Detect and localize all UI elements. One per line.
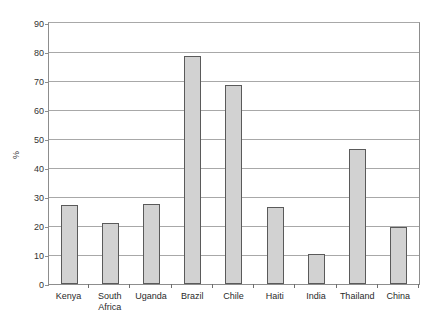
x-tick-mark (418, 284, 419, 288)
bar-slot (255, 23, 296, 284)
y-tick-label: 10 (34, 252, 44, 261)
x-axis-ticks (48, 284, 419, 289)
x-axis-label-line: Chile (213, 291, 254, 302)
x-axis-label-brazil: Brazil (172, 291, 213, 313)
bar[interactable] (267, 207, 284, 284)
x-tick-cell (130, 284, 171, 289)
y-axis-title: % (1, 145, 31, 165)
x-tick-cell (172, 284, 213, 289)
x-tick-cell (337, 284, 378, 289)
y-tick-label: 0 (39, 281, 44, 290)
x-tick-cell (48, 284, 89, 289)
plot-area: 0102030405060708090 (48, 22, 420, 285)
x-axis-label-line: Kenya (48, 291, 89, 302)
bar[interactable] (184, 56, 201, 284)
x-axis-label-line: Africa (89, 302, 130, 313)
x-axis-label-line: Uganda (130, 291, 171, 302)
bar-slot (296, 23, 337, 284)
bar-slot (213, 23, 254, 284)
x-axis-label-south-africa: SouthAfrica (89, 291, 130, 313)
bars-group (49, 23, 419, 284)
x-axis-label-line: China (378, 291, 419, 302)
bar[interactable] (225, 85, 242, 284)
y-tick-label: 40 (34, 165, 44, 174)
x-axis-label-china: China (378, 291, 419, 313)
bar-slot (172, 23, 213, 284)
x-axis-label-line: India (295, 291, 336, 302)
x-axis-label-line: South (89, 291, 130, 302)
x-tick-cell (295, 284, 336, 289)
bar[interactable] (308, 254, 325, 284)
x-axis-label-haiti: Haiti (254, 291, 295, 313)
x-axis-label-line: Thailand (337, 291, 378, 302)
x-axis-label-kenya: Kenya (48, 291, 89, 313)
x-axis-label-india: India (295, 291, 336, 313)
x-axis-label-thailand: Thailand (337, 291, 378, 313)
bar[interactable] (349, 149, 366, 284)
x-axis-label-line: Haiti (254, 291, 295, 302)
bar[interactable] (61, 205, 78, 284)
bar-chart: % 0102030405060708090 KenyaSouthAfricaUg… (0, 0, 438, 322)
x-tick-cell (213, 284, 254, 289)
bar[interactable] (102, 223, 119, 284)
bar-slot (131, 23, 172, 284)
y-tick-label: 70 (34, 78, 44, 87)
x-tick-cell (89, 284, 130, 289)
x-axis-label-chile: Chile (213, 291, 254, 313)
bar-slot (337, 23, 378, 284)
x-axis-label-line: Brazil (172, 291, 213, 302)
bar-slot (90, 23, 131, 284)
y-tick-label: 50 (34, 136, 44, 145)
x-axis-labels: KenyaSouthAfricaUgandaBrazilChileHaitiIn… (48, 291, 419, 313)
y-tick-label: 90 (34, 20, 44, 29)
x-tick-cell (378, 284, 419, 289)
bar[interactable] (143, 204, 160, 284)
y-tick-label: 60 (34, 107, 44, 116)
x-axis-label-uganda: Uganda (130, 291, 171, 313)
bar-slot (378, 23, 419, 284)
x-tick-cell (254, 284, 295, 289)
bar-slot (49, 23, 90, 284)
bar[interactable] (390, 227, 407, 284)
y-tick-label: 80 (34, 49, 44, 58)
y-tick-label: 20 (34, 223, 44, 232)
y-tick-label: 30 (34, 194, 44, 203)
